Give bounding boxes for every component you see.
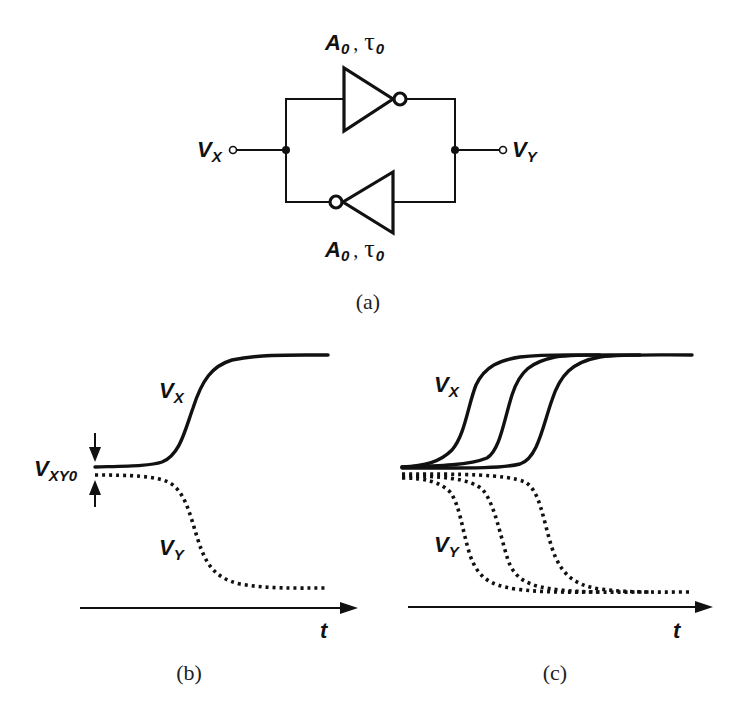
panel-b-waveforms: t VXY0 VX VY (b): [34, 355, 358, 685]
top-inverter-bubble-icon: [394, 93, 406, 105]
figure-canvas: A0,τ0 A0,τ0 VX VY (a) t VXY0: [0, 0, 740, 708]
right-junction-dot-icon: [451, 146, 459, 154]
vxy0-down-arrow-icon: [89, 447, 101, 462]
caption-b: (b): [176, 660, 202, 685]
vxy0-label: VXY0: [34, 456, 78, 484]
vx-curve: [95, 355, 328, 467]
right-terminal-icon: [500, 147, 507, 154]
time-axis-arrow-icon: [340, 602, 358, 614]
time-axis-label: t: [320, 618, 329, 643]
panel-c-vx-label: VX: [434, 372, 460, 400]
top-right-wire: [407, 99, 455, 150]
vy-curve-1: [402, 478, 600, 592]
caption-c: (c): [543, 660, 567, 685]
panel-a-latch-circuit: A0,τ0 A0,τ0 VX VY (a): [197, 27, 539, 314]
panel-b-vx-label: VX: [159, 378, 185, 406]
panel-c-waveforms: t VX VY (c): [402, 355, 713, 685]
vx-terminal-label: VX: [197, 137, 223, 165]
bottom-left-wire: [286, 150, 330, 202]
left-terminal-icon: [230, 147, 237, 154]
bottom-right-wire: [393, 150, 455, 202]
vx-curve-1: [402, 355, 600, 467]
vy-terminal-label: VY: [512, 137, 539, 165]
panel-c-vy-label: VY: [434, 532, 461, 560]
left-junction-dot-icon: [282, 146, 290, 154]
top-left-wire: [286, 99, 344, 150]
time-axis-c-label: t: [673, 618, 682, 643]
top-inverter-label: A0,τ0: [324, 27, 385, 57]
caption-a: (a): [356, 289, 380, 314]
bottom-inverter-icon: [343, 172, 393, 233]
vy-curve: [95, 475, 328, 588]
panel-b-vy-label: VY: [159, 535, 186, 563]
bottom-inverter-bubble-icon: [330, 196, 342, 208]
vxy0-up-arrow-icon: [89, 480, 101, 495]
top-inverter-icon: [344, 68, 393, 131]
bottom-inverter-label: A0,τ0: [324, 234, 385, 264]
time-axis-c-arrow-icon: [695, 601, 713, 613]
